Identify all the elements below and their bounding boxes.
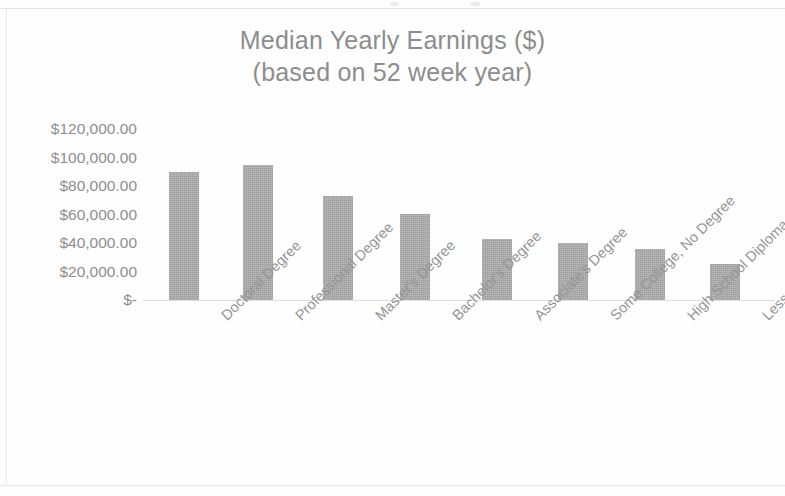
- x-axis-tick-label: Professional Degree: [292, 312, 304, 324]
- x-axis-tick-label: High School Diploma: [684, 312, 696, 324]
- y-axis-tick-label: $60,000.00: [7, 207, 137, 223]
- chart-screenshot: Median Yearly Earnings ($) (based on 52 …: [0, 0, 785, 496]
- x-axis-tick-label: Associate's Degree: [531, 312, 543, 324]
- x-axis-tick-label: Some College, No Degree: [607, 312, 619, 324]
- plot-area: $120,000.00$100,000.00$80,000.00$60,000.…: [0, 0, 785, 496]
- bar: [169, 172, 199, 300]
- x-axis-tick-label: Bachelor's Degree: [449, 312, 461, 324]
- y-axis-tick-label: $40,000.00: [7, 235, 137, 251]
- y-axis-tick-label: $80,000.00: [7, 178, 137, 194]
- y-axis-tick-label: $120,000.00: [7, 121, 137, 137]
- x-axis-tick-label: Less Than High School…: [759, 312, 771, 324]
- y-axis-tick-label: $20,000.00: [7, 264, 137, 280]
- y-axis-tick-label: $-: [7, 292, 137, 308]
- x-axis-tick-label: Doctoral Degree: [218, 312, 230, 324]
- x-axis-tick-label: Master's Degree: [372, 312, 384, 324]
- y-axis-tick-label: $100,000.00: [7, 150, 137, 166]
